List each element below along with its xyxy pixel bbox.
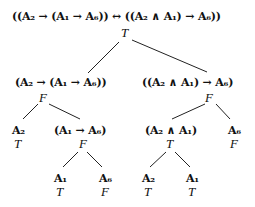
edge-rl-rll [150, 152, 166, 167]
root-formula: ((A₂ → (A₁ → A₆)) ↔ ((A₂ ∧ A₁) → A₆)) [12, 10, 221, 23]
left-formula: (A₂ → (A₁ → A₆)) [15, 76, 106, 89]
edge-root-right [132, 40, 207, 72]
rll-value: T [144, 184, 151, 200]
right-value: F [205, 90, 213, 106]
left-value: F [39, 90, 47, 106]
edge-lr-lrl [63, 152, 78, 167]
lrr-value: F [101, 184, 109, 200]
rl-value: T [166, 136, 173, 152]
truth-tree-diagram: ((A₂ → (A₁ → A₆)) ↔ ((A₂ ∧ A₁) → A₆)) T … [0, 0, 255, 207]
root-value: T [121, 25, 128, 41]
edge-left-lr [49, 104, 80, 119]
edge-root-left [88, 42, 119, 73]
edge-right-rr [216, 104, 230, 119]
ll-value: T [14, 136, 21, 152]
rr-value: F [230, 136, 238, 152]
lr-value: F [79, 136, 87, 152]
edge-lr-lrr [87, 152, 102, 167]
edge-rl-rlr [175, 152, 190, 167]
rlr-value: T [188, 184, 195, 200]
edge-right-rl [172, 104, 205, 119]
lrl-value: T [56, 184, 63, 200]
edge-left-ll [23, 104, 38, 119]
right-formula: ((A₂ ∧ A₁) → A₆) [142, 76, 233, 89]
